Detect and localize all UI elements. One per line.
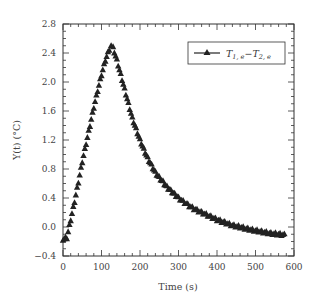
legend: T1, e−T2, e <box>188 42 285 64</box>
y-tick-label: 2.4 <box>42 48 57 58</box>
y-tick-label: 2.0 <box>42 77 57 87</box>
y-tick-label: 1.6 <box>42 106 57 116</box>
data-point-triangle <box>87 123 93 129</box>
data-point-triangle <box>76 172 82 178</box>
chart-figure: 0100200300400500600−0.40.00.40.81.21.62.… <box>0 0 315 308</box>
data-point-triangle <box>71 199 77 205</box>
data-point-triangle <box>80 152 86 158</box>
y-tick-label: 2.8 <box>42 19 57 29</box>
x-tick-label: 0 <box>60 262 66 272</box>
x-tick-label: 400 <box>208 262 225 272</box>
x-tick-label: 200 <box>131 262 148 272</box>
data-point-triangle <box>115 63 121 69</box>
data-point-triangle <box>91 105 97 111</box>
y-axis-label: Y(t) (°C) <box>11 120 22 161</box>
data-point-triangle <box>73 192 79 198</box>
x-tick-label: 300 <box>170 262 187 272</box>
y-tick-label: 0.4 <box>42 193 57 203</box>
x-tick-label: 100 <box>93 262 110 272</box>
y-tick-label: −0.4 <box>34 251 56 261</box>
data-point-triangle <box>92 98 98 104</box>
y-tick-label: 0.0 <box>42 222 57 232</box>
x-tick-label: 600 <box>285 262 302 272</box>
data-series <box>60 42 288 242</box>
data-point-triangle <box>75 180 81 186</box>
data-point-triangle <box>98 72 104 78</box>
data-point-triangle <box>119 77 125 83</box>
x-tick-label: 500 <box>247 262 264 272</box>
data-point-triangle <box>83 141 89 147</box>
data-point-triangle <box>94 88 100 94</box>
y-tick-label: 1.2 <box>42 135 56 145</box>
data-point-triangle <box>84 134 90 140</box>
data-point-triangle <box>65 228 71 234</box>
data-point-triangle <box>123 92 129 98</box>
data-point-triangle <box>100 66 106 72</box>
data-point-triangle <box>88 116 94 122</box>
data-point-triangle <box>68 217 74 223</box>
x-axis-label: Time (s) <box>158 281 197 292</box>
data-point-triangle <box>96 82 102 88</box>
data-point-triangle <box>69 210 75 216</box>
data-point-triangle <box>79 159 85 165</box>
data-point-triangle <box>127 106 133 112</box>
y-tick-label: 0.8 <box>42 164 57 174</box>
